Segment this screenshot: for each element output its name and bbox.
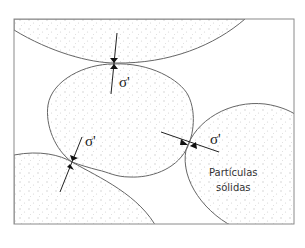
particles-label-line2: sólidas	[216, 182, 251, 193]
sigma-label-left: σ'	[85, 133, 96, 149]
effective-stress-diagram: σ' σ' σ' Partículas sólidas	[0, 0, 305, 248]
sigma-label-top: σ'	[119, 74, 130, 90]
sigma-label-right: σ'	[210, 131, 221, 147]
particles-label-line1: Partículas	[209, 167, 257, 178]
particle-top	[14, 19, 245, 63]
